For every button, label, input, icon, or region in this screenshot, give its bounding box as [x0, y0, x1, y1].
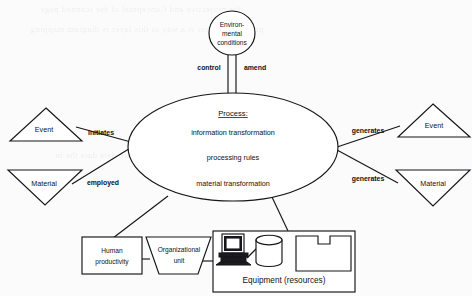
diagram-canvas: the projective and Conceptual of the sca… [0, 0, 472, 296]
process-title: Process: [218, 109, 248, 118]
edge-label-amend: amend [244, 64, 266, 71]
database-cylinder-icon [256, 235, 282, 266]
node-human-productivity[interactable] [82, 237, 142, 274]
material-input-label: Material [31, 179, 57, 188]
edge-label-initiates: initiates [88, 129, 114, 136]
environment-label-line3: conditions [217, 39, 247, 46]
edge-process-human-line [113, 196, 168, 238]
node-material-output[interactable] [396, 170, 470, 206]
event-output-label: Event [425, 121, 443, 130]
edge-label-control: control [197, 64, 220, 71]
organizational-unit-label-line2: unit [174, 257, 185, 264]
edge-label-employed: employed [87, 179, 119, 187]
event-input-label: Event [35, 125, 53, 134]
material-output-label: Material [420, 179, 446, 188]
environment-label-line1: Environ- [220, 21, 245, 28]
process-line-information-transformation: information transformation [191, 128, 275, 137]
human-productivity-label-line2: productivity [95, 258, 129, 266]
human-productivity-label-line1: Human [101, 247, 123, 254]
equipment-label: Equipment (resources) [243, 276, 326, 285]
process-line-processing-rules: processing rules [207, 153, 260, 162]
environment-label-line2: mental [222, 30, 242, 37]
process-model-diagram: Environ- mental conditions control amend… [0, 0, 472, 296]
edge-label-generates-material: generates [352, 175, 385, 183]
process-line-material-transformation: material transformation [196, 179, 270, 188]
organizational-unit-label-line1: Organizational [158, 246, 201, 254]
edge-label-generates-event: generates [352, 127, 385, 135]
edge-process-equipment-line [272, 197, 288, 231]
node-organizational-unit[interactable] [146, 237, 211, 274]
